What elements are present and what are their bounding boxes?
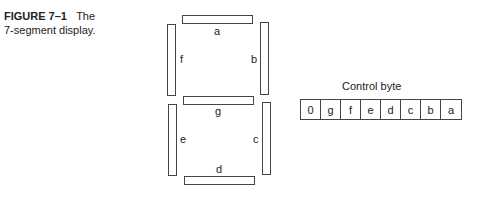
segment-a (182, 15, 253, 24)
label-a: a (214, 26, 220, 37)
label-g: g (215, 106, 221, 117)
label-e: e (180, 134, 186, 145)
caption-title-line2: 7-segment display. (4, 23, 96, 37)
bit-3: d (381, 100, 401, 119)
bit-6: g (321, 100, 341, 119)
segment-f (167, 24, 176, 96)
segment-b (260, 22, 269, 95)
segment-d (184, 176, 255, 185)
label-f: f (180, 54, 183, 65)
segment-g (183, 96, 254, 105)
bit-4: e (361, 100, 381, 119)
figure-label: FIGURE 7–1 (4, 10, 67, 22)
caption-title-line1: The (76, 10, 95, 22)
label-d: d (216, 164, 222, 175)
bit-5: f (341, 100, 361, 119)
figure-caption: FIGURE 7–1 The 7-segment display. (4, 9, 96, 37)
segment-e (168, 104, 177, 176)
control-byte-title: Control byte (342, 80, 401, 92)
label-b: b (251, 54, 257, 65)
segment-c (262, 102, 271, 175)
bit-2: c (401, 100, 421, 119)
bit-7: 0 (301, 100, 321, 119)
bit-1: b (421, 100, 441, 119)
control-byte-table: 0 g f e d c b a (300, 99, 462, 120)
label-c: c (253, 134, 259, 145)
bit-0: a (441, 100, 461, 119)
